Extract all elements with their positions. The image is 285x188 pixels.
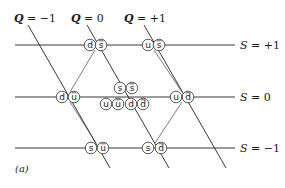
hexagon-edges [70,50,182,143]
figure-label: (a) [15,164,29,174]
svg-text:u: u [71,92,77,102]
s-label-0: S = 0 [240,92,271,103]
antiquark-circle: s [153,39,165,51]
quark-circle: u [100,98,112,110]
quark-circle: d [84,39,96,51]
svg-text:s: s [118,83,123,93]
quark-circle: u [142,39,154,51]
svg-text:s: s [146,143,151,153]
svg-text:u: u [145,40,151,50]
antiquark-circle: u [112,98,124,110]
svg-text:d: d [87,40,93,50]
antiquark-circle: u [97,142,109,154]
svg-text:u: u [103,99,109,109]
q-label-minus1: Q = −1 [14,13,56,24]
svg-text:u: u [100,143,106,153]
svg-text:s: s [99,40,104,50]
svg-text:s: s [130,83,135,93]
s-label-minus1: S = −1 [240,143,280,154]
svg-text:u: u [173,92,179,102]
q-label-0: Q = 0 [71,13,104,24]
antiquark-circle: d [155,142,167,154]
svg-text:d: d [140,99,146,109]
quark-circles: dsusduudsusdssuudd [56,39,194,154]
quark-circle: s [142,142,154,154]
svg-text:d: d [128,99,134,109]
quark-circle: u [170,91,182,103]
antiquark-circle: d [137,98,149,110]
svg-text:d: d [158,143,164,153]
svg-text:s: s [89,143,94,153]
quark-circle: d [125,98,137,110]
s-label-plus1: S = +1 [240,40,280,51]
quark-circle: d [56,91,68,103]
antiquark-circle: s [95,39,107,51]
svg-text:u: u [115,99,121,109]
svg-text:d: d [185,92,191,102]
svg-text:s: s [157,40,162,50]
quark-circle: s [85,142,97,154]
quark-circle: s [114,82,126,94]
svg-text:d: d [59,92,65,102]
antiquark-circle: d [182,91,194,103]
antiquark-circle: u [68,91,80,103]
q-label-plus1: Q = +1 [124,13,166,24]
antiquark-circle: s [126,82,138,94]
